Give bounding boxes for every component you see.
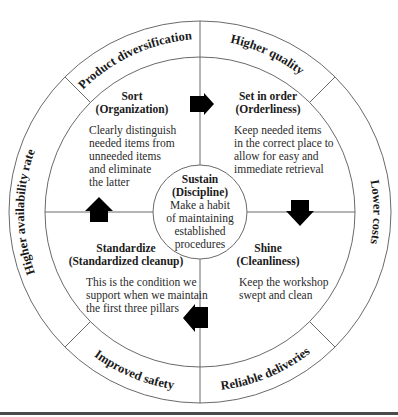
ring-label-reliable-deliveries: Reliable deliveries: [220, 344, 313, 393]
five-s-wheel-diagram: Product diversification Higher quality L…: [0, 0, 398, 417]
arrow-right-icon: [190, 93, 214, 115]
set-in-order-title: Set in order: [239, 90, 297, 102]
ring-label-higher-availability-rate: Higher availability rate: [13, 147, 38, 277]
standardize-subtitle: (Standardized cleanup): [69, 255, 184, 268]
standardize-line: the first three pillars: [86, 302, 179, 315]
standardize-title: Standardize: [96, 242, 155, 254]
sort-line: Clearly distinguish: [89, 124, 176, 137]
ring-divider-top-right: [310, 77, 335, 102]
set-in-order-line: immediate retrieval: [234, 163, 324, 175]
quadrant-standardize: Standardize (Standardized cleanup) This …: [69, 242, 208, 315]
set-in-order-line: in the correct place to: [234, 137, 334, 150]
ring-divider-bottom-left: [65, 322, 90, 347]
sustain-line: established: [174, 225, 225, 237]
quadrant-set-in-order: Set in order (Orderliness) Keep needed i…: [234, 90, 334, 175]
ring-label-improved-safety: Improved safety: [92, 347, 176, 392]
ring-divider-bottom-right: [310, 322, 335, 347]
shine-title: Shine: [254, 242, 282, 254]
shine-subtitle: (Cleanliness): [236, 255, 299, 268]
sort-line: the latter: [89, 176, 130, 188]
ring-label-higher-quality: Higher quality: [229, 32, 307, 78]
shine-line: swept and clean: [239, 289, 313, 302]
set-in-order-line: Keep needed items: [234, 124, 322, 137]
standardize-line: This is the condition we: [86, 276, 197, 288]
quadrant-sort: Sort (Organization) Clearly distinguish …: [89, 90, 176, 188]
sustain-line: of maintaining: [166, 212, 234, 225]
ring-label-lower-costs: Lower costs: [367, 179, 384, 246]
sustain-line: procedures: [175, 238, 226, 251]
sort-subtitle: (Organization): [96, 103, 169, 116]
arrow-left-icon: [183, 304, 208, 332]
bottom-rule-divider: [0, 412, 398, 415]
ring-label-product-diversification: Product diversification: [76, 28, 193, 92]
sustain-line: Make a habit: [170, 199, 231, 211]
shine-line: Keep the workshop: [239, 276, 329, 289]
sort-line: and eliminate: [89, 163, 151, 175]
quadrant-shine: Shine (Cleanliness) Keep the workshop sw…: [236, 242, 328, 302]
set-in-order-line: allow for easy and: [234, 150, 319, 163]
arrow-up-icon: [85, 197, 113, 222]
sort-title: Sort: [121, 90, 142, 102]
sort-line: unneeded items: [89, 150, 161, 162]
standardize-line: support when we maintain: [86, 289, 208, 302]
sustain-subtitle: (Discipline): [172, 186, 228, 199]
sustain-title: Sustain: [182, 173, 219, 185]
sort-line: needed items from: [89, 137, 175, 149]
arrow-down-icon: [286, 200, 314, 226]
center-sustain: Sustain (Discipline) Make a habit of mai…: [166, 173, 234, 251]
set-in-order-subtitle: (Orderliness): [235, 103, 300, 116]
